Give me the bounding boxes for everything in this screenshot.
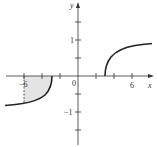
origin-label: 0 — [72, 79, 76, 88]
x-axis-label: x — [147, 81, 152, 90]
y-axis-label: y — [69, 1, 74, 10]
right-branch-curve — [105, 44, 152, 77]
function-graph: y x 0 −6 6 1 −1 — [0, 0, 157, 147]
x-tick-label-neg6: −6 — [19, 80, 28, 89]
x-axis-arrow-icon — [148, 74, 154, 78]
x-tick-label-6: 6 — [130, 81, 134, 90]
y-axis-arrow-icon — [76, 2, 80, 8]
y-tick-label-neg1: −1 — [64, 108, 73, 117]
y-tick-label-1: 1 — [70, 36, 74, 45]
